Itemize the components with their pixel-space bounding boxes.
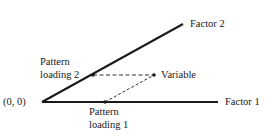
loading1-label-line1: Pattern	[89, 106, 119, 118]
variable-point	[152, 73, 156, 77]
variable-label: Variable	[161, 69, 196, 81]
loading2-label-line1: Pattern	[40, 56, 70, 68]
factor2-label: Factor 2	[190, 18, 225, 30]
loading2-point	[91, 73, 95, 77]
loading1-point	[103, 100, 107, 104]
loading2-label-line2: loading 2	[40, 69, 79, 81]
loading1-label-line2: loading 1	[89, 119, 128, 131]
projection-to-loading1	[105, 75, 154, 102]
origin-label: (0, 0)	[3, 96, 26, 108]
factor1-label: Factor 1	[225, 96, 260, 108]
